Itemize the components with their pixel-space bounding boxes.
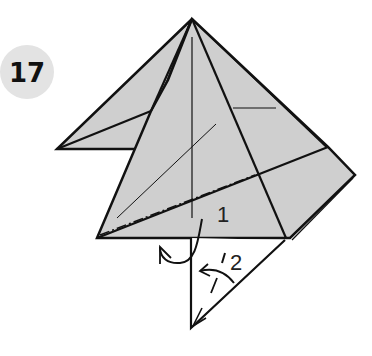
label-step-1: 1 (217, 202, 229, 227)
step-badge: 17 (0, 45, 54, 99)
origami-diagram: 17 1 2 (0, 0, 372, 356)
label-step-2: 2 (230, 250, 242, 275)
step-number: 17 (9, 58, 45, 88)
